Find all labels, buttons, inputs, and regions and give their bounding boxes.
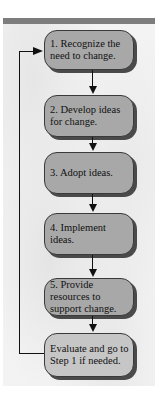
- step-1-box: 1. Recognize the need to change.: [44, 30, 134, 70]
- step-4-label: 4. Implement ideas.: [50, 222, 106, 246]
- arrow-down-icon: [89, 143, 97, 151]
- arrow-down-icon: [89, 86, 97, 94]
- arrow-down-icon: [89, 269, 97, 277]
- step-3-label: 3. Adopt ideas.: [50, 167, 113, 179]
- step-4-box: 4. Implement ideas.: [44, 213, 134, 255]
- feedback-line-bottom: [19, 353, 44, 354]
- evaluate-box: Evaluate and go to Step 1 if needed.: [44, 333, 134, 377]
- feedback-arrow-icon: [33, 47, 43, 55]
- step-1-label: 1. Recognize the need to change.: [50, 38, 120, 62]
- step-2-box: 2. Develop ideas for change.: [44, 95, 134, 137]
- step-5-label: 5. Provide resources to support change.: [50, 279, 116, 315]
- step-2-label: 2. Develop ideas for change.: [50, 104, 120, 128]
- arrow-down-icon: [89, 204, 97, 212]
- diagram-panel: [3, 24, 155, 386]
- step-3-box: 3. Adopt ideas.: [44, 152, 134, 194]
- arrow-down-icon: [89, 324, 97, 332]
- evaluate-label: Evaluate and go to Step 1 if needed.: [50, 343, 128, 367]
- step-5-box: 5. Provide resources to support change.: [44, 278, 134, 316]
- feedback-line-vertical: [19, 51, 20, 354]
